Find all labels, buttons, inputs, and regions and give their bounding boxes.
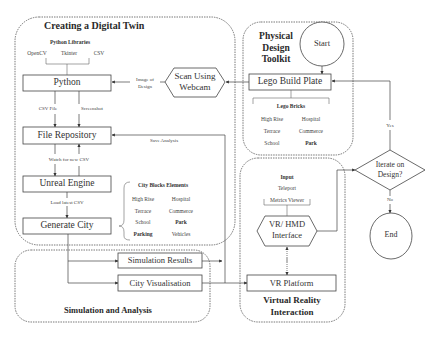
- generate-city-label: Generate City: [23, 221, 111, 231]
- edge-label-screenshot: Screenshot: [74, 106, 110, 111]
- label-line: Image of: [130, 77, 160, 82]
- city-block-item: Parking: [126, 232, 160, 238]
- lego-bricks-title: Lego Bricks: [270, 104, 312, 110]
- title-line: Virtual Reality: [252, 296, 332, 305]
- title-line: Toolkit: [254, 55, 298, 65]
- start-label: Start: [300, 39, 344, 48]
- city-block-item: Terrace: [126, 209, 160, 215]
- python-library-item: OpenCV: [22, 51, 52, 57]
- python-libraries-title: Python Libraries: [40, 40, 100, 46]
- edge-label-yes: Yes: [381, 123, 399, 128]
- group-title-vr-interaction: Virtual Reality Interaction: [252, 296, 332, 317]
- group-title-simulation: Simulation and Analysis: [64, 306, 152, 315]
- city-block-item: Hospital: [162, 197, 200, 203]
- vr-hmd-label: VR/ HMD Interface: [257, 220, 317, 239]
- city-block-item: Park: [162, 220, 200, 226]
- python-label: Python: [23, 78, 111, 88]
- label-line: Webcam: [165, 83, 225, 92]
- vr-input-item: Metrics Viewer: [262, 198, 312, 204]
- label-line: Design?: [360, 171, 420, 179]
- vr-input-item: Teleport: [266, 186, 308, 192]
- unreal-label: Unreal Engine: [23, 179, 111, 189]
- title-line: Physical: [254, 32, 298, 42]
- title-line: Interaction: [252, 308, 332, 317]
- end-label: End: [371, 231, 411, 239]
- edge-label-image-of-design: Image of Design: [130, 77, 160, 89]
- edge-label-save-analysis: Save Analysis: [142, 138, 186, 143]
- label-line: Scan Using: [165, 72, 225, 81]
- group-title-physical-toolkit: Physical Design Toolkit: [254, 32, 298, 65]
- python-libraries-brace: [46, 58, 89, 75]
- label-line: Design: [130, 84, 160, 89]
- lego-brick-item: Terrace: [254, 129, 290, 135]
- city-blocks-title: City Blocks Elements: [130, 183, 196, 189]
- city-block-item: Vehicles: [162, 232, 200, 238]
- label-line: Interface: [257, 231, 317, 240]
- vr-platform-label: VR Platform: [247, 279, 336, 288]
- edge-label-csv-file: CSV File: [33, 106, 63, 111]
- city-block-item: Commerce: [162, 209, 200, 215]
- city-vis-label: City Visualisation: [118, 279, 202, 288]
- label-line: VR/ HMD: [257, 220, 317, 229]
- lego-plate-label: Lego Build Plate: [249, 77, 331, 87]
- lego-brick-item: Park: [291, 141, 331, 147]
- sim-results-label: Simulation Results: [118, 256, 202, 265]
- python-library-item: Tkinter: [54, 51, 84, 57]
- group-title-digital-twin: Creating a Digital Twin: [44, 21, 144, 31]
- iterate-label: Iterate on Design?: [360, 161, 420, 178]
- edge-label-no: No: [381, 197, 399, 202]
- edge-label-watch-csv: Watch for new CSV: [38, 157, 100, 162]
- lego-brick-item: Commerce: [291, 129, 331, 135]
- lego-brick-item: School: [254, 141, 290, 147]
- city-block-item: School: [126, 220, 160, 226]
- edge-label-load-csv: Load latest CSV: [42, 200, 92, 205]
- lego-brick-item: High Rise: [254, 117, 290, 123]
- lego-bricks-brace: [253, 90, 329, 104]
- vr-input-title: Input: [270, 175, 304, 181]
- city-block-item: High Rise: [126, 197, 160, 203]
- lego-brick-item: Hospital: [291, 117, 331, 123]
- scan-webcam-label: Scan Using Webcam: [165, 72, 225, 92]
- python-library-item: CSV: [88, 51, 110, 57]
- title-line: Design: [254, 44, 298, 54]
- label-line: Iterate on: [360, 161, 420, 169]
- file-repo-label: File Repository: [23, 131, 111, 141]
